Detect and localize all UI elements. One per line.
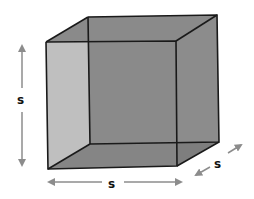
cube-front-face — [46, 41, 177, 169]
depth-label: s — [214, 157, 221, 171]
width-label: s — [108, 177, 115, 191]
cube-diagram: s s s — [0, 0, 254, 199]
height-label: s — [17, 93, 24, 107]
